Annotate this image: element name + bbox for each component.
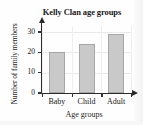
y-tick-mark (38, 72, 42, 73)
x-axis-arrow (132, 90, 138, 96)
y-tick-label: 10 (21, 68, 35, 76)
x-category-label-adult: Adult (99, 97, 133, 106)
bar-chart-figure: Kelly Clan age groups Number of family m… (0, 0, 143, 125)
y-tick-label-container: 20 (21, 48, 35, 56)
y-tick-label-container: 10 (21, 68, 35, 76)
y-axis-label-container: Number of family members (8, 16, 20, 112)
x-axis-label: Age groups (34, 110, 134, 119)
x-tick-mark (101, 93, 102, 97)
scan-header-fragment (6, 0, 66, 5)
y-tick-mark (38, 52, 42, 53)
page-edge-strip-bottom (0, 121, 143, 125)
y-axis-label: Number of family members (10, 23, 19, 104)
bar-child (79, 44, 95, 93)
gridline-vertical (72, 26, 73, 93)
y-tick-label: 0 (21, 89, 35, 97)
x-tick-mark (42, 93, 43, 97)
y-axis-arrow (39, 17, 45, 23)
chart-title: Kelly Clan age groups (30, 7, 134, 17)
x-axis-line (41, 93, 133, 94)
gridline-vertical (101, 26, 102, 93)
page-edge-strip-right (134, 0, 143, 125)
y-tick-mark (38, 31, 42, 32)
gridline-horizontal (42, 32, 131, 33)
x-tick-mark (131, 93, 132, 97)
x-tick-mark (72, 93, 73, 97)
bar-baby (49, 52, 65, 93)
y-tick-label: 20 (21, 48, 35, 56)
gridline-vertical (131, 26, 132, 93)
y-tick-label: 30 (21, 28, 35, 36)
plot-area (42, 26, 131, 93)
y-tick-label-container: 30 (21, 28, 35, 36)
bar-adult (108, 34, 124, 93)
y-tick-label-container: 0 (21, 89, 35, 97)
